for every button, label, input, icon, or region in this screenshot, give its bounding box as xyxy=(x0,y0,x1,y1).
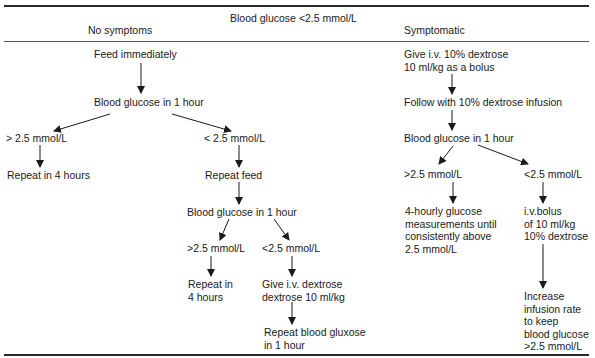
bolus-line1: i.v.bolus xyxy=(524,205,588,218)
incr-line2: infusion rate xyxy=(524,303,589,316)
node-4-hourly-glucose: 4-hourly glucose measurements until cons… xyxy=(405,205,497,255)
repeat-in-line1: Repeat in xyxy=(188,278,233,291)
node-give-iv-dextrose: Give i.v. dextrose dextrose 10 ml/kg xyxy=(262,278,345,303)
node-follow-infusion: Follow with 10% dextrose infusion xyxy=(404,96,562,109)
header-condition: Blood glucose <2.5 mmol/L xyxy=(230,12,357,25)
header-no-symptoms: No symptoms xyxy=(88,24,152,37)
node-repeat-4-hours: Repeat in 4 hours xyxy=(7,169,90,182)
incr-line4: blood glucose xyxy=(524,328,589,341)
give-iv-line2: dextrose 10 ml/kg xyxy=(262,291,345,304)
incr-line3: to keep xyxy=(524,315,589,328)
hourly-line4: 2.5 mmol/L xyxy=(405,243,497,256)
repeat-bg-line2: in 1 hour xyxy=(264,339,366,352)
node-gt-2-5-a: > 2.5 mmol/L xyxy=(6,132,67,145)
node-repeat-feed: Repeat feed xyxy=(205,169,262,182)
node-blood-glucose-2: Blood glucose in 1 hour xyxy=(187,206,297,219)
give-line2: 10 ml/kg as a bolus xyxy=(404,61,508,74)
give-line1: Give i.v. 10% dextrose xyxy=(404,48,508,61)
header-rule xyxy=(4,41,589,42)
node-lt-2-5-right: <2.5 mmol/L xyxy=(524,168,582,181)
node-blood-glucose-right: Blood glucose in 1 hour xyxy=(404,132,514,145)
node-gt-2-5-right: >2.5 mmol/L xyxy=(404,168,462,181)
node-increase-infusion: Increase infusion rate to keep blood glu… xyxy=(524,290,589,353)
node-blood-glucose-1: Blood glucose in 1 hour xyxy=(94,96,204,109)
header-symptomatic: Symptomatic xyxy=(404,24,465,37)
node-iv-bolus: i.v.bolus of 10 ml/kg 10% dextrose xyxy=(524,205,588,243)
node-feed-immediately: Feed immediately xyxy=(94,48,177,61)
repeat-in-line2: 4 hours xyxy=(188,291,233,304)
repeat-bg-line1: Repeat blood gluxose xyxy=(264,326,366,339)
bottom-rule xyxy=(4,354,589,356)
bolus-line3: 10% dextrose xyxy=(524,230,588,243)
node-repeat-in-4-hours: Repeat in 4 hours xyxy=(188,278,233,303)
hourly-line2: measurements until xyxy=(405,218,497,231)
node-repeat-blood-glucose: Repeat blood gluxose in 1 hour xyxy=(264,326,366,351)
incr-line1: Increase xyxy=(524,290,589,303)
node-gt-2-5-b: >2.5 mmol/L xyxy=(187,242,245,255)
node-give-iv-10-dextrose: Give i.v. 10% dextrose 10 ml/kg as a bol… xyxy=(404,48,508,73)
bolus-line2: of 10 ml/kg xyxy=(524,218,588,231)
top-rule xyxy=(4,5,589,7)
give-iv-line1: Give i.v. dextrose xyxy=(262,278,345,291)
hourly-line3: consistently above xyxy=(405,230,497,243)
node-lt-2-5-b: <2.5 mmol/L xyxy=(262,242,320,255)
node-lt-2-5-a: < 2.5 mmol/L xyxy=(204,132,265,145)
incr-line5: >2.5 mmol/L xyxy=(524,340,589,353)
hourly-line1: 4-hourly glucose xyxy=(405,205,497,218)
